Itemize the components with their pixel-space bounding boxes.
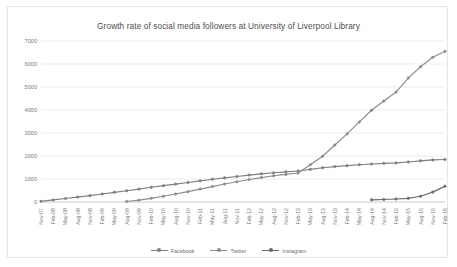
y-axis-tick-label: 4000 — [25, 107, 37, 113]
data-point-facebook — [174, 183, 177, 186]
data-point-facebook — [113, 191, 116, 194]
x-axis-tick-label: Nov-10 — [185, 208, 191, 225]
data-point-facebook — [101, 193, 104, 196]
data-point-twitter — [432, 56, 435, 59]
chart-frame: Growth rate of social media followers at… — [7, 6, 448, 258]
legend-item-instagram[interactable]: Instagram — [262, 247, 306, 254]
x-axis-tick-label: Aug-10 — [173, 208, 179, 225]
data-point-instagram — [444, 185, 447, 188]
data-point-twitter — [138, 199, 141, 202]
x-axis-tick-label: Aug-12 — [271, 208, 277, 225]
legend-label-facebook: Facebook — [171, 248, 195, 254]
x-axis-tick-label: Feb-15 — [393, 208, 399, 225]
data-point-twitter — [383, 100, 386, 103]
x-axis-tick-label: Aug-14 — [369, 208, 375, 225]
legend-swatch-instagram — [262, 247, 279, 254]
x-axis-tick-label: Aug-08 — [75, 208, 81, 225]
legend-swatch-twitter — [210, 247, 227, 254]
data-point-facebook — [370, 163, 373, 166]
legend-marker-facebook — [157, 248, 161, 252]
data-point-facebook — [64, 197, 67, 200]
y-axis-tick-label: 3000 — [25, 130, 37, 136]
data-point-twitter — [162, 195, 165, 198]
x-axis-tick-label: May-14 — [356, 208, 362, 225]
legend-item-facebook[interactable]: Facebook — [151, 247, 195, 254]
legend-marker-instagram — [269, 248, 273, 252]
data-point-facebook — [395, 162, 398, 165]
data-point-twitter — [285, 173, 288, 176]
data-point-twitter — [272, 175, 275, 178]
x-axis-tick-label: Nov-14 — [381, 208, 387, 225]
x-axis-tick-label: Feb-11 — [197, 208, 203, 224]
x-axis-tick-label: Feb-14 — [344, 208, 350, 225]
data-point-twitter — [334, 144, 337, 147]
x-axis-tick-label: Nov-08 — [87, 208, 93, 225]
data-point-twitter — [199, 188, 202, 191]
data-point-twitter — [223, 183, 226, 186]
x-axis-tick-label: Aug-13 — [320, 208, 326, 225]
x-axis-tick-label: May-09 — [111, 208, 117, 225]
x-axis-tick-label: Feb-12 — [246, 208, 252, 225]
data-point-twitter — [297, 172, 300, 175]
data-point-facebook — [187, 181, 190, 184]
x-axis-tick-label: May-13 — [307, 208, 313, 225]
data-point-facebook — [309, 168, 312, 171]
data-point-facebook — [236, 175, 239, 178]
data-point-instagram — [419, 195, 422, 198]
data-point-twitter — [174, 193, 177, 196]
y-axis-tick-label: 0 — [34, 199, 37, 205]
chart-legend: Facebook Twitter Instagram — [8, 247, 449, 254]
x-axis-tick-label: Nov-09 — [136, 208, 142, 225]
data-point-facebook — [407, 161, 410, 164]
data-point-facebook — [162, 184, 165, 187]
data-point-facebook — [419, 160, 422, 163]
x-axis-tick-label: Nov-12 — [283, 208, 289, 225]
x-axis-tick-label: Aug-11 — [222, 208, 228, 224]
legend-item-twitter[interactable]: Twitter — [210, 247, 246, 254]
x-axis-tick-label: Nov-11 — [234, 208, 240, 224]
data-point-facebook — [52, 199, 55, 202]
data-point-twitter — [309, 163, 312, 166]
data-point-twitter — [419, 66, 422, 69]
x-axis-tick-label: Feb-10 — [148, 208, 154, 225]
x-axis-tick-label: Nov-07 — [38, 208, 44, 225]
x-axis-tick-label: Feb-09 — [99, 208, 105, 225]
x-axis-tick-label: May-11 — [209, 208, 215, 225]
x-axis-tick-label: May-08 — [62, 208, 68, 225]
data-point-twitter — [358, 121, 361, 124]
data-point-facebook — [358, 163, 361, 166]
x-axis-tick-label: Aug-15 — [418, 208, 424, 225]
data-point-twitter — [248, 178, 251, 181]
data-point-facebook — [89, 194, 92, 197]
data-point-twitter — [236, 181, 239, 184]
data-point-facebook — [199, 180, 202, 183]
x-axis-tick-label: May-12 — [258, 208, 264, 225]
data-point-facebook — [383, 162, 386, 165]
y-axis-tick-label: 1000 — [25, 176, 37, 182]
data-point-twitter — [150, 197, 153, 200]
data-point-instagram — [432, 191, 435, 194]
data-point-facebook — [138, 188, 141, 191]
x-axis-tick-label: May-10 — [160, 208, 166, 225]
data-point-facebook — [211, 178, 214, 181]
legend-marker-twitter — [217, 248, 221, 252]
x-axis-tick-label: Feb-16 — [442, 208, 448, 225]
data-point-facebook — [444, 158, 447, 161]
y-axis-tick-label: 2000 — [25, 153, 37, 159]
data-point-instagram — [395, 198, 398, 201]
data-point-facebook — [285, 171, 288, 174]
data-point-facebook — [260, 173, 263, 176]
data-point-facebook — [76, 196, 79, 199]
y-axis-tick-label: 5000 — [25, 84, 37, 90]
x-axis-tick-label: Aug-09 — [124, 208, 130, 225]
data-point-facebook — [150, 186, 153, 189]
data-point-twitter — [346, 133, 349, 136]
line-chart-svg: 01000200030004000500060007000Nov-07Feb-0… — [8, 7, 449, 259]
legend-label-twitter: Twitter — [230, 248, 246, 254]
data-point-facebook — [272, 172, 275, 175]
data-point-twitter — [407, 77, 410, 80]
legend-swatch-facebook — [151, 247, 168, 254]
data-point-facebook — [346, 164, 349, 167]
data-point-twitter — [260, 176, 263, 179]
data-point-twitter — [444, 50, 447, 53]
